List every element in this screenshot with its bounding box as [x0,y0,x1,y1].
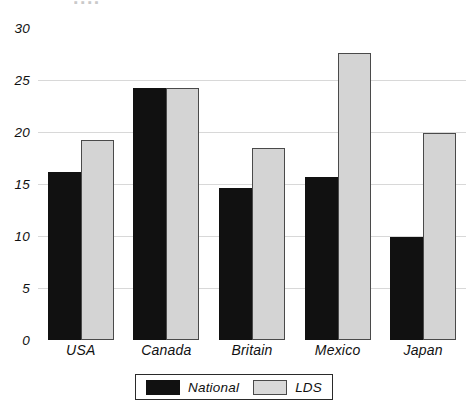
black-square-swatch-icon [146,380,180,395]
y-tick-label-5: 5 [22,280,30,295]
y-tick-label-20: 20 [15,124,30,139]
y-tick-label-15: 15 [15,177,30,192]
bar-canada-lds [166,88,199,340]
clipped-header-text: ▪ ▪ ▪ ▪ [74,0,99,4]
category-label-canada: Canada [141,342,191,358]
bar-usa-lds [81,140,114,340]
category-label-usa: USA [66,342,95,358]
category-label-japan: Japan [404,342,443,358]
legend-entry-lds[interactable]: LDS [253,380,322,395]
category-labels: USACanadaBritainMexicoJapan [38,342,466,366]
category-label-mexico: Mexico [315,342,361,358]
bar-britain-national [219,188,252,340]
bar-mexico-lds [338,53,371,340]
y-tick-label-30: 30 [15,21,30,36]
bar-chart: ▪ ▪ ▪ ▪ 30 25 20 15 10 5 0 USACanadaBrit… [0,0,474,408]
legend-label-national: National [188,380,239,395]
y-tick-label-0: 0 [22,333,30,348]
bars-layer [38,28,466,340]
legend: National LDS [135,374,333,400]
gray-square-swatch-icon [253,380,287,395]
bar-mexico-national [305,177,338,340]
legend-label-lds: LDS [295,380,322,395]
bar-canada-national [133,88,166,340]
y-tick-label-25: 25 [15,73,30,88]
category-label-britain: Britain [231,342,272,358]
legend-entry-national[interactable]: National [146,380,239,395]
y-axis: 30 25 20 15 10 5 0 [0,28,34,340]
bar-japan-national [390,237,423,340]
bar-japan-lds [423,133,456,340]
bar-usa-national [48,172,81,340]
y-tick-label-10: 10 [15,229,30,244]
bar-britain-lds [252,148,285,340]
